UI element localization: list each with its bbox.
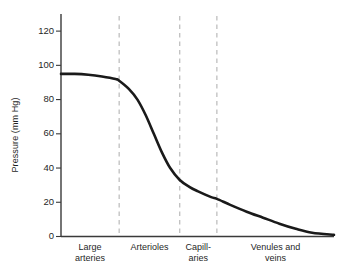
- y-tick-label-40: 40: [28, 162, 54, 173]
- y-axis-title: Pressure (mm Hg): [10, 75, 20, 195]
- y-tick-label-120: 120: [28, 25, 54, 36]
- category-label-4: Venules and veins: [230, 242, 320, 264]
- y-tick-label-100: 100: [28, 59, 54, 70]
- y-tick-label-20: 20: [28, 196, 54, 207]
- pressure-curve-line: [61, 74, 334, 235]
- y-tick-label-80: 80: [28, 93, 54, 104]
- blood-pressure-chart: Pressure (mm Hg) 020406080100120 Large a…: [0, 0, 342, 279]
- category-divider-lines: [119, 16, 217, 236]
- y-axis-tick-marks: [56, 31, 61, 236]
- y-tick-label-60: 60: [28, 127, 54, 138]
- y-tick-label-0: 0: [28, 230, 54, 241]
